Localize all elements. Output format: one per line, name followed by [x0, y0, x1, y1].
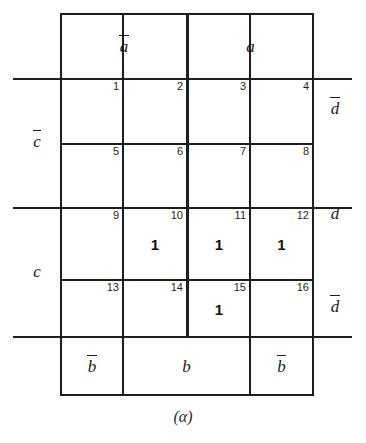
right-label-d-bar-bottom: d — [320, 293, 350, 319]
grid-border-right — [312, 13, 314, 396]
map-cell-15-number: 15 — [234, 281, 246, 293]
map-cell-1[interactable]: 1 — [62, 80, 122, 143]
map-cell-16-number: 16 — [297, 281, 309, 293]
map-cell-8-number: 8 — [303, 145, 309, 157]
map-cell-11-value: 1 — [189, 237, 249, 252]
map-cell-3[interactable]: 3 — [189, 80, 249, 143]
map-cell-16[interactable]: 16 — [251, 281, 312, 336]
map-cell-12-number: 12 — [297, 209, 309, 221]
map-cell-8[interactable]: 8 — [251, 145, 312, 207]
left-label-c-text: c — [33, 263, 41, 280]
column-header-a-bar-text: a — [119, 38, 129, 55]
left-label-c: c — [22, 258, 52, 284]
map-cell-10[interactable]: 10 1 — [124, 209, 186, 279]
bottom-header-b-bar-right-text: b — [277, 358, 287, 375]
bottom-header-b-bar-left: b — [62, 338, 122, 394]
right-label-d-bar-top-text: d — [330, 100, 340, 117]
map-cell-7[interactable]: 7 — [189, 145, 249, 207]
right-label-d-text: d — [331, 205, 340, 222]
right-label-d-bar-top: d — [320, 95, 350, 121]
map-cell-4-number: 4 — [303, 80, 309, 92]
column-header-a: a — [189, 15, 312, 78]
map-cell-15[interactable]: 15 1 — [189, 281, 249, 336]
map-cell-9-number: 9 — [113, 209, 119, 221]
map-cell-15-value: 1 — [189, 301, 249, 316]
column-header-a-bar: a — [62, 15, 186, 78]
map-cell-13[interactable]: 13 — [62, 281, 122, 336]
map-cell-14-number: 14 — [171, 281, 183, 293]
map-cell-6[interactable]: 6 — [124, 145, 186, 207]
bottom-header-b-text: b — [182, 358, 191, 375]
map-cell-12-value: 1 — [251, 237, 312, 252]
map-cell-11[interactable]: 11 1 — [189, 209, 249, 279]
bottom-header-b-bar-left-text: b — [87, 358, 97, 375]
map-cell-11-number: 11 — [235, 209, 246, 221]
column-header-a-text: a — [246, 38, 255, 55]
map-cell-5-number: 5 — [113, 145, 119, 157]
map-cell-1-number: 1 — [113, 80, 119, 92]
karnaugh-map-figure: a a 1 2 3 4 5 6 7 8 9 10 1 — [0, 0, 366, 443]
right-label-d-bar-bottom-text: d — [330, 298, 340, 315]
map-cell-9[interactable]: 9 — [62, 209, 122, 279]
figure-caption: (α) — [0, 408, 366, 426]
map-cell-2-number: 2 — [177, 80, 183, 92]
map-cell-14[interactable]: 14 — [124, 281, 186, 336]
map-cell-6-number: 6 — [177, 145, 183, 157]
left-label-c-bar: c — [22, 128, 52, 154]
map-cell-4[interactable]: 4 — [251, 80, 312, 143]
map-cell-2[interactable]: 2 — [124, 80, 186, 143]
map-cell-12[interactable]: 12 1 — [251, 209, 312, 279]
right-label-d: d — [320, 200, 350, 226]
map-cell-13-number: 13 — [107, 281, 119, 293]
map-cell-5[interactable]: 5 — [62, 145, 122, 207]
bottom-header-b: b — [124, 338, 249, 394]
map-cell-10-value: 1 — [124, 237, 186, 252]
map-cell-3-number: 3 — [240, 80, 246, 92]
map-cell-10-number: 10 — [171, 209, 183, 221]
bottom-header-b-bar-right: b — [251, 338, 312, 394]
left-label-c-bar-text: c — [33, 133, 42, 150]
map-cell-7-number: 7 — [240, 145, 246, 157]
